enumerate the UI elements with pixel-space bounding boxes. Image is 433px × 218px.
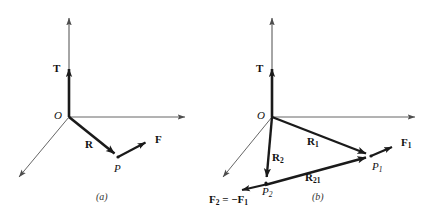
panel-b-label-vector-R1-base: R — [307, 135, 315, 147]
panel-b-label-vector-F2-equation: F2 = −F1 — [209, 194, 248, 207]
panel-a-label-vector-F: F — [155, 134, 162, 145]
panel-b-vector-R2 — [267, 117, 272, 177]
panel-b-diagonal-axis — [223, 117, 272, 177]
panel-a-label-point-P: P — [114, 163, 121, 174]
panel-b-label-vector-R21: R21 — [305, 172, 320, 185]
panel-b-vector-R1 — [272, 117, 366, 154]
panel-b-label-vector-F1-sub: 1 — [408, 141, 412, 150]
panel-b-label-vector-R21-sub: 21 — [313, 176, 321, 185]
panel-b-label-vector-R1-sub: 1 — [315, 140, 319, 149]
panel-a-label-T: T — [53, 63, 60, 74]
panel-b-label-vector-R2-sub: 2 — [280, 156, 284, 165]
panel-b-label-vector-F2-equation-sub: 1 — [244, 198, 248, 207]
panel-b-point-P1-marker — [369, 154, 372, 157]
panel-a-geometry — [19, 18, 185, 177]
panel-b-label-vector-R1: R1 — [307, 136, 319, 149]
panel-b-label-vector-F1-base: F — [401, 136, 408, 148]
panel-b-label-T: T — [256, 63, 263, 74]
panel-b-label-point-P2-sub: 2 — [269, 190, 273, 199]
panel-b-label-point-P1: P1 — [372, 161, 382, 174]
panel-b-label-point-P1-sub: 1 — [379, 165, 383, 174]
panel-b-label-point-P2-base: P — [262, 185, 269, 197]
panel-b-label-point-P1-base: P — [372, 160, 379, 172]
panel-a-vector-F — [118, 143, 146, 158]
panel-b-geometry — [223, 18, 415, 190]
panel-b-label-vector-R21-base: R — [305, 171, 313, 183]
panel-b-label-vector-R2-base: R — [272, 151, 280, 163]
panel-a-point-P-marker — [116, 155, 119, 158]
panel-a-label-vector-R: R — [85, 139, 93, 150]
panel-b-caption: (b) — [312, 192, 324, 202]
panel-b-label-vector-F2-equals: = −F — [222, 193, 244, 205]
panel-b-vector-F1 — [371, 147, 392, 156]
panel-b-label-origin-O: O — [257, 110, 265, 121]
panel-b-label-vector-F2-base: F — [209, 193, 216, 205]
panel-a-label-origin-O: O — [54, 110, 62, 121]
figure-vector-canvas — [0, 0, 433, 218]
panel-b-label-point-P2: P2 — [262, 186, 272, 199]
figure-container: T O R F P (a) T O R1 R2 R21 F1 F2 = −F1 … — [0, 0, 433, 218]
panel-a-caption: (a) — [96, 192, 108, 202]
panel-a-diagonal-axis — [19, 117, 69, 177]
panel-b-label-vector-R2: R2 — [272, 152, 284, 165]
panel-b-label-vector-F1: F1 — [401, 137, 411, 150]
